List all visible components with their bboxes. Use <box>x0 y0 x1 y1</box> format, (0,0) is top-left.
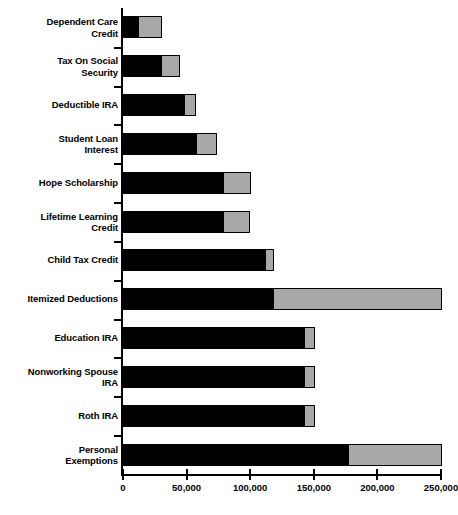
x-tick <box>249 469 251 480</box>
x-tick-label: 250,000 <box>424 482 458 493</box>
x-tick <box>313 469 315 480</box>
x-tick <box>122 469 124 480</box>
x-tick <box>440 469 442 480</box>
x-tick-label: 100,000 <box>233 482 267 493</box>
x-tick <box>186 469 188 480</box>
x-tick <box>376 469 378 480</box>
x-tick-label: 50,000 <box>172 482 201 493</box>
x-tick-label: 150,000 <box>297 482 331 493</box>
x-tick-label: 200,000 <box>360 482 394 493</box>
x-tick-label: 0 <box>120 482 125 493</box>
